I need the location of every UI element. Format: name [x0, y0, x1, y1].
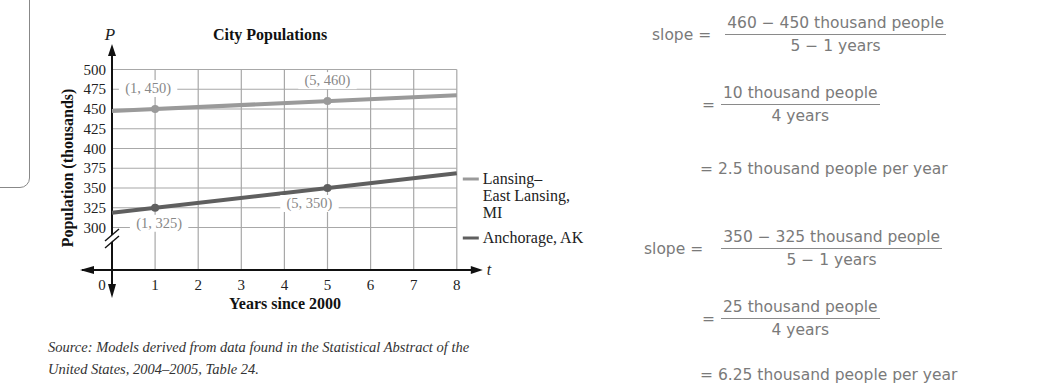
- chart-title: City Populations: [213, 26, 327, 44]
- legend-label: Lansing–: [483, 170, 544, 188]
- x-tick-label: 1: [151, 277, 159, 293]
- y-tick-label: 400: [84, 141, 107, 157]
- y-axis-variable: P: [104, 25, 115, 44]
- numerator: 10 thousand people: [721, 84, 880, 105]
- point-label: (5, 350): [287, 195, 333, 212]
- x-axis-arrow-left: [80, 266, 94, 274]
- denominator: 4 years: [772, 105, 829, 125]
- source-note: Source: Models derived from data found i…: [48, 336, 608, 380]
- slope-label: slope =: [644, 240, 703, 258]
- fraction: 25 thousand people 4 years: [721, 298, 880, 339]
- y-axis-arrow-up: [108, 44, 116, 56]
- x-axis-label: Years since 2000: [229, 295, 341, 312]
- equals-sign: =: [702, 96, 715, 114]
- y-tick-label: 475: [84, 81, 107, 97]
- lansing-step1: slope = 460 − 450 thousand people 5 − 1 …: [652, 14, 946, 55]
- y-tick-label: 375: [84, 160, 107, 176]
- anchorage-step2: = 25 thousand people 4 years: [700, 298, 880, 339]
- y-tick-label: 500: [84, 62, 107, 78]
- lansing-step2: = 10 thousand people 4 years: [700, 84, 880, 125]
- x-tick-label: 6: [367, 277, 375, 293]
- x-tick-label: 0: [98, 277, 106, 293]
- lansing-step3: = 2.5 thousand people per year: [700, 160, 948, 178]
- slope-label: slope =: [652, 26, 711, 44]
- y-axis-label: Population (thousands): [59, 89, 77, 248]
- city-populations-chart: 300325350375400425450475500012345678PtCi…: [0, 0, 640, 330]
- y-tick-label: 300: [84, 220, 107, 236]
- data-point: [324, 97, 332, 105]
- data-point: [324, 184, 332, 192]
- data-point: [151, 204, 159, 212]
- fraction: 10 thousand people 4 years: [721, 84, 880, 125]
- y-tick-label: 425: [84, 121, 107, 137]
- legend-label: Anchorage, AK: [483, 229, 584, 247]
- data-point: [151, 105, 159, 113]
- anchorage-step1: slope = 350 − 325 thousand people 5 − 1 …: [644, 228, 942, 269]
- x-axis-arrow-right: [471, 266, 483, 274]
- x-tick-label: 5: [324, 277, 332, 293]
- anchorage-step3: = 6.25 thousand people per year: [700, 366, 957, 384]
- x-axis-variable: t: [487, 261, 492, 278]
- numerator: 460 − 450 thousand people: [725, 14, 946, 35]
- fraction: 350 − 325 thousand people 5 − 1 years: [721, 228, 942, 269]
- x-tick-label: 3: [238, 277, 246, 293]
- y-tick-label: 450: [84, 101, 107, 117]
- equals-sign: =: [702, 310, 715, 328]
- y-tick-label: 325: [84, 200, 107, 216]
- y-axis-arrow-down: [108, 284, 116, 298]
- denominator: 5 − 1 years: [791, 35, 881, 55]
- y-tick-label: 350: [84, 180, 107, 196]
- x-tick-label: 2: [194, 277, 202, 293]
- point-label: (1, 450): [125, 80, 171, 97]
- denominator: 5 − 1 years: [787, 249, 877, 269]
- numerator: 25 thousand people: [721, 298, 880, 319]
- point-label: (5, 460): [305, 72, 351, 89]
- source-line-1: Source: Models derived from data found i…: [48, 336, 608, 358]
- x-tick-label: 4: [281, 277, 289, 293]
- source-line-2: United States, 2004–2005, Table 24.: [48, 358, 608, 380]
- fraction: 460 − 450 thousand people 5 − 1 years: [725, 14, 946, 55]
- x-tick-label: 8: [453, 277, 461, 293]
- denominator: 4 years: [772, 319, 829, 339]
- x-tick-label: 7: [410, 277, 418, 293]
- numerator: 350 − 325 thousand people: [721, 228, 942, 249]
- legend-label: MI: [483, 204, 503, 221]
- point-label: (1, 325): [136, 215, 182, 232]
- legend-label: East Lansing,: [483, 187, 570, 205]
